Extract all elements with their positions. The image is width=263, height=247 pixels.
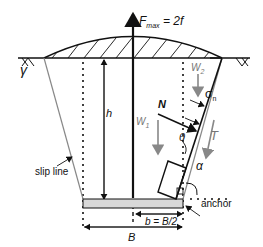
- slip-line-left: [44, 58, 83, 199]
- N-label: N: [158, 99, 166, 110]
- N-arrow: [158, 114, 196, 131]
- gamma-label: γ: [20, 63, 27, 77]
- slip-line-label: slip line: [35, 167, 68, 177]
- theta-label: θ: [179, 132, 185, 143]
- h-label: h: [106, 108, 112, 119]
- b-equation-label: b = B/2: [145, 217, 177, 227]
- B-label: B: [128, 232, 135, 243]
- sigma-n-arrow-2: [185, 118, 199, 124]
- alpha-arc: [186, 183, 197, 195]
- soil-element: [158, 161, 186, 199]
- anchor-plate: [83, 199, 183, 208]
- sigma-n-label: σn: [205, 88, 216, 102]
- diagram-canvas: [0, 0, 263, 247]
- ground-hatch-right-icon: [236, 58, 248, 66]
- force-label: Fmax = 2f: [139, 15, 183, 29]
- anchor-pullout-diagram: Fmax = 2f γ h N W1 W2 σn θ T α slip line…: [0, 0, 263, 247]
- W2-label: W2: [191, 63, 204, 75]
- anchor-leader: [186, 206, 200, 216]
- T-label: T: [210, 129, 218, 142]
- slip-line-leader: [57, 157, 72, 166]
- anchor-label: anchor: [201, 199, 232, 209]
- alpha-label: α: [196, 160, 203, 172]
- W1-label: W1: [136, 117, 149, 129]
- sigma-n-arrow-1: [190, 100, 204, 106]
